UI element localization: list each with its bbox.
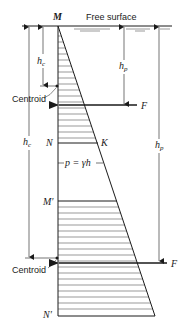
point-n-label: N (45, 137, 54, 148)
pressure-diagram: Free surface M N K hc Centroid hp F p = … (0, 0, 187, 333)
force-upper-label: F (140, 100, 148, 111)
upper-pressure-prism (58, 36, 120, 138)
point-k-label: K (100, 137, 109, 148)
centroid-upper-dot (56, 85, 59, 88)
centroid-lower-label: Centroid (12, 265, 46, 275)
centroid-lower-leader (48, 260, 56, 268)
pressure-equation: p = γh (64, 157, 91, 168)
water-ripples (74, 29, 170, 31)
centroid-lower-dot (56, 257, 59, 260)
point-nprime-label: N′ (42, 309, 53, 320)
point-mprime-label: M′ (42, 196, 54, 207)
pressure-distribution-line (58, 26, 155, 316)
force-lower-label: F (170, 258, 178, 269)
lower-pressure-prism (58, 207, 160, 309)
free-surface-label: Free surface (86, 12, 137, 22)
point-m-label: M (52, 11, 63, 22)
